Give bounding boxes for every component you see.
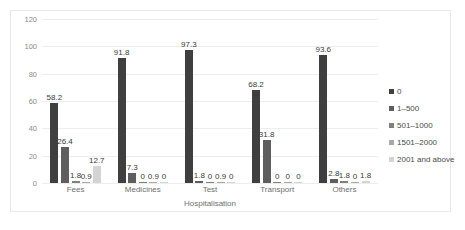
bar[interactable] bbox=[61, 147, 69, 183]
legend-item[interactable]: 0 bbox=[389, 83, 454, 100]
bar-slot: 93.6 bbox=[319, 19, 327, 183]
y-axis-tick-label: 100 bbox=[24, 43, 37, 51]
legend-label: 501–1000 bbox=[397, 122, 433, 130]
bar-data-label: 0.9 bbox=[215, 173, 226, 181]
legend-swatch-icon bbox=[389, 157, 394, 162]
bar-data-label: 0.9 bbox=[81, 173, 92, 181]
bar-slot: 0 bbox=[273, 19, 281, 183]
y-axis-tick-label: 0 bbox=[33, 180, 37, 188]
bar-slot: 0 bbox=[139, 19, 147, 183]
bar-data-label: 1.8 bbox=[339, 172, 350, 180]
legend-item[interactable]: 2001 and above bbox=[389, 151, 454, 168]
bar-slot: 0 bbox=[294, 19, 302, 183]
y-axis-tick-label: 20 bbox=[29, 152, 37, 160]
y-axis-tick-label: 80 bbox=[29, 70, 37, 78]
chart-container: 020406080100120 58.226.41.80.912.791.87.… bbox=[10, 10, 451, 212]
x-axis-category-label: Transport bbox=[244, 183, 311, 197]
plot-area: 020406080100120 58.226.41.80.912.791.87.… bbox=[42, 19, 378, 183]
legend-item[interactable]: 1501–2000 bbox=[389, 134, 454, 151]
y-axis-tick-label: 60 bbox=[29, 98, 37, 106]
bar[interactable] bbox=[93, 166, 101, 183]
bar-slot: 0.9 bbox=[217, 19, 225, 183]
y-axis-tick-label: 120 bbox=[24, 16, 37, 24]
bar-data-label: 0 bbox=[208, 173, 212, 181]
bar[interactable] bbox=[118, 58, 126, 183]
bar-group: 68.231.8000 bbox=[244, 19, 311, 183]
bar-data-label: 7.3 bbox=[127, 164, 138, 172]
legend-item[interactable]: 1–500 bbox=[389, 100, 454, 117]
x-axis-category-label: Test bbox=[176, 183, 243, 197]
legend-label: 1501–2000 bbox=[397, 139, 437, 147]
bar-group: 97.31.800.90 bbox=[176, 19, 243, 183]
bar-data-label: 26.4 bbox=[57, 138, 73, 146]
bar-data-label: 0 bbox=[275, 173, 279, 181]
bar[interactable] bbox=[185, 50, 193, 183]
bar-slot: 68.2 bbox=[252, 19, 260, 183]
bar-data-label: 91.8 bbox=[114, 49, 130, 57]
bar-data-label: 58.2 bbox=[47, 94, 63, 102]
legend-label: 1–500 bbox=[397, 105, 419, 113]
bar-slot: 0 bbox=[284, 19, 292, 183]
chart-legend: 01–500501–10001501–20002001 and above bbox=[389, 83, 454, 168]
x-axis-category-labels: FeesMedicinesTestTransportOthers bbox=[42, 183, 378, 197]
bar[interactable] bbox=[263, 140, 271, 183]
bar-data-label: 1.8 bbox=[70, 172, 81, 180]
bar-slot: 1.8 bbox=[72, 19, 80, 183]
bar-slot: 2.8 bbox=[330, 19, 338, 183]
bar-data-label: 93.6 bbox=[315, 46, 331, 54]
bar[interactable] bbox=[319, 55, 327, 183]
bar-data-label: 31.8 bbox=[259, 131, 275, 139]
bar-slot: 1.8 bbox=[195, 19, 203, 183]
bar-data-label: 2.8 bbox=[328, 170, 339, 178]
bar-slot: 0 bbox=[227, 19, 235, 183]
bar-group: 91.87.300.90 bbox=[109, 19, 176, 183]
bar-slot: 1.8 bbox=[340, 19, 348, 183]
legend-swatch-icon bbox=[389, 123, 394, 128]
bar-slot: 0 bbox=[206, 19, 214, 183]
legend-swatch-icon bbox=[389, 140, 394, 145]
bar-slot: 0 bbox=[160, 19, 168, 183]
legend-label: 0 bbox=[397, 88, 401, 96]
bar-data-label: 1.8 bbox=[194, 172, 205, 180]
x-axis-category-label: Medicines bbox=[109, 183, 176, 197]
y-axis-tick-label: 40 bbox=[29, 125, 37, 133]
bar-data-label: 0 bbox=[162, 173, 166, 181]
legend-label: 2001 and above bbox=[397, 156, 454, 164]
legend-swatch-icon bbox=[389, 89, 394, 94]
bar-slot: 91.8 bbox=[118, 19, 126, 183]
bar-slot: 26.4 bbox=[61, 19, 69, 183]
bar-data-label: 0 bbox=[229, 173, 233, 181]
bar-slot: 31.8 bbox=[263, 19, 271, 183]
bar-slot: 0 bbox=[351, 19, 359, 183]
bar-data-label: 68.2 bbox=[248, 81, 264, 89]
bar-slot: 58.2 bbox=[50, 19, 58, 183]
bar-slot: 1.8 bbox=[362, 19, 370, 183]
x-axis-category-label: Others bbox=[311, 183, 378, 197]
bar-data-label: 0.9 bbox=[148, 173, 159, 181]
bar-slot: 0.9 bbox=[149, 19, 157, 183]
bar-data-label: 0 bbox=[286, 173, 290, 181]
bar-data-label: 0 bbox=[141, 173, 145, 181]
bar-groups: 58.226.41.80.912.791.87.300.9097.31.800.… bbox=[42, 19, 378, 183]
bar-group: 58.226.41.80.912.7 bbox=[42, 19, 109, 183]
bar-data-label: 12.7 bbox=[89, 157, 105, 165]
bar-slot: 7.3 bbox=[128, 19, 136, 183]
bar[interactable] bbox=[128, 173, 136, 183]
bar-slot: 97.3 bbox=[185, 19, 193, 183]
legend-item[interactable]: 501–1000 bbox=[389, 117, 454, 134]
bar-data-label: 97.3 bbox=[181, 41, 197, 49]
legend-swatch-icon bbox=[389, 106, 394, 111]
bar-slot: 12.7 bbox=[93, 19, 101, 183]
bar-data-label: 0 bbox=[296, 173, 300, 181]
bar-data-label: 0 bbox=[353, 173, 357, 181]
x-axis-category-label: Fees bbox=[42, 183, 109, 197]
x-axis-title: Hospitalisation bbox=[42, 198, 378, 210]
bar-data-label: 1.8 bbox=[360, 172, 371, 180]
bar-group: 93.62.81.801.8 bbox=[311, 19, 378, 183]
